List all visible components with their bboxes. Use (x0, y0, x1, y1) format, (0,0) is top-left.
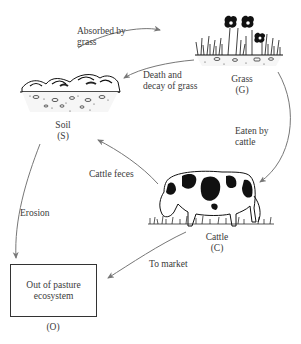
box-text: Out of pasture ecosystem (26, 280, 80, 302)
label-cattle-feces: Cattle feces (89, 169, 134, 180)
label-line: grass (77, 37, 126, 48)
node-name: Cattle (200, 232, 234, 243)
node-code: (C) (200, 243, 234, 254)
node-code: (G) (227, 85, 257, 96)
arrow-erosion (16, 144, 40, 258)
cattle-illustration (148, 171, 274, 226)
node-cattle-label: Cattle (C) (200, 232, 234, 254)
node-code: (S) (50, 131, 76, 142)
box-line: Out of pasture (26, 280, 80, 290)
node-out-of-pasture-box: Out of pasture ecosystem (10, 264, 97, 317)
label-line: Eaten by (235, 126, 269, 137)
node-soil-label: Soil (S) (50, 120, 76, 142)
label-erosion: Erosion (20, 208, 50, 219)
label-to-market: To market (149, 259, 188, 270)
nutrient-cycle-diagram: Absorbed by grass Death and decay of gra… (0, 0, 301, 344)
label-line: Cattle feces (89, 169, 134, 180)
arrow-to-market (108, 232, 186, 278)
soil-illustration (20, 75, 120, 112)
box-line: ecosystem (34, 291, 74, 301)
label-line: Erosion (20, 208, 50, 219)
label-line: To market (149, 259, 188, 270)
node-name: Soil (50, 120, 76, 131)
node-grass-label: Grass (G) (227, 74, 257, 96)
label-line: Death and (143, 70, 197, 81)
label-line: decay of grass (143, 81, 197, 92)
label-eaten-by-cattle: Eaten by cattle (235, 126, 269, 148)
grass-illustration (195, 16, 283, 66)
label-absorbed-by-grass: Absorbed by grass (77, 26, 126, 48)
label-line: Absorbed by (77, 26, 126, 37)
node-out-code: (O) (40, 322, 66, 333)
label-death-and-decay: Death and decay of grass (143, 70, 197, 92)
label-line: cattle (235, 137, 269, 148)
node-name: Grass (227, 74, 257, 85)
